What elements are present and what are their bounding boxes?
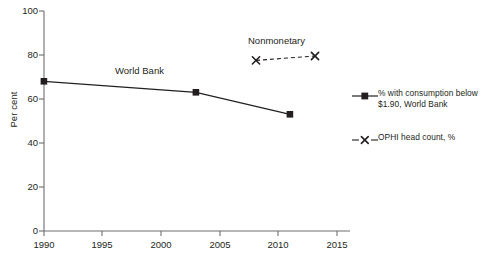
legend-label-ophi: OPHI head count, % — [378, 132, 455, 143]
legend-item-world-bank: % with consumption below $1.90, World Ba… — [352, 88, 495, 110]
legend-label-world-bank: % with consumption below $1.90, World Ba… — [378, 88, 478, 110]
legend-label-world-bank-line1: % with consumption below — [378, 88, 478, 99]
chart-figure: Per cent 100 80 60 40 20 0 1990 1995 200… — [0, 0, 495, 261]
legend-key-dashed-x-icon — [352, 133, 378, 147]
legend-key-line-square-icon — [352, 89, 378, 103]
data-point-world-bank-2011 — [287, 111, 294, 118]
series-world-bank-line — [44, 81, 290, 114]
data-point-world-bank-2003 — [193, 89, 200, 96]
x-tick-marks — [44, 231, 337, 236]
series-nonmonetary-line — [256, 56, 315, 60]
data-point-world-bank-1990 — [41, 78, 48, 85]
y-tick-marks — [39, 11, 44, 231]
legend-label-world-bank-line2: $1.90, World Bank — [378, 99, 478, 110]
legend-label-ophi-line1: OPHI head count, % — [378, 132, 455, 143]
chart-legend: % with consumption below $1.90, World Ba… — [352, 88, 495, 169]
legend-item-ophi: OPHI head count, % — [352, 132, 495, 147]
